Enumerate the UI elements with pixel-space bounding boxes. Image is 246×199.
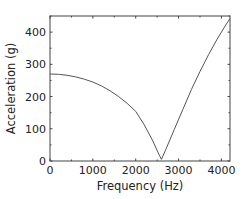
x-axis-label: Frequency (Hz) [97,179,184,193]
y-tick-label: 0 [39,155,46,168]
y-tick-labels: 0100200300400 [25,26,46,168]
axes-frame [50,16,230,161]
x-tick-label: 4000 [207,164,235,177]
y-tick-label: 300 [25,58,46,71]
y-axis-label: Acceleration (g) [4,43,18,134]
x-tick-label: 0 [47,164,54,177]
x-tick-label: 2000 [122,164,150,177]
y-tick-label: 200 [25,91,46,104]
acceleration-line [50,19,230,160]
y-tick-label: 100 [25,123,46,136]
x-tick-label: 1000 [79,164,107,177]
chart: 01000200030004000 0100200300400 Frequenc… [0,0,246,199]
x-tick-label: 3000 [165,164,193,177]
x-tick-labels: 01000200030004000 [47,164,236,177]
y-tick-label: 400 [25,26,46,39]
axis-ticks [50,16,230,161]
